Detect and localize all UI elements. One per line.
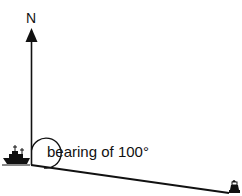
bearing-line: [31, 165, 229, 193]
lighthouse-icon: [229, 180, 240, 193]
north-arrow-icon: [26, 28, 38, 42]
bearing-label: bearing of 100°: [47, 143, 149, 160]
ship-icon: [2, 145, 30, 165]
bearing-diagram: [0, 0, 242, 196]
north-label: N: [26, 10, 36, 26]
